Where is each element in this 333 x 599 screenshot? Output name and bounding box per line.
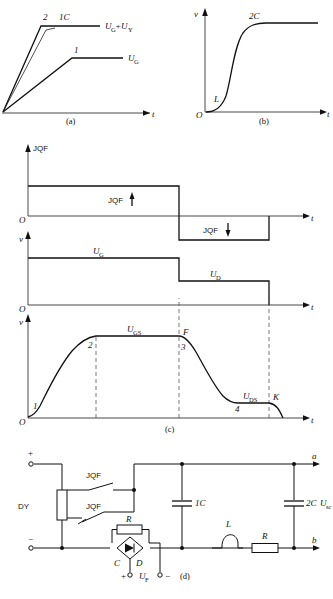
chart1-x-arrow: [303, 213, 310, 219]
circuit-top-left-wire: [34, 464, 62, 490]
panel-b-caption: (b): [259, 116, 269, 126]
chart3-x-arrow: [303, 415, 310, 421]
chart3-plateau-label: U GS: [127, 324, 142, 336]
usc-sub: sc: [326, 503, 332, 510]
bridge-right-label: D: [135, 558, 143, 568]
terminal-plus: [29, 462, 33, 466]
panel-b-plateau-label: 2C: [249, 11, 261, 21]
chart1-y-axis-label: JQF: [33, 144, 48, 153]
panel-c-caption: (c): [165, 424, 175, 434]
inductor-label: L: [225, 519, 231, 529]
panel-a-cap-label: 1C: [59, 12, 71, 22]
cap1-bottom-node: [180, 546, 184, 550]
panel-a-upper-curve-label: U G +U Y: [105, 21, 133, 33]
chart1-pulse-neg-label: JQF: [203, 226, 218, 235]
chart3-uds-sub: DS: [249, 396, 258, 403]
figure-root: 2 1C 1 U G +U Y U G t (a) v t O L 2C (b: [0, 0, 333, 599]
terminal-minus-label: −: [28, 534, 33, 544]
relay-bottom-tick: [78, 519, 86, 524]
chart3-ptF: F: [182, 327, 189, 337]
chart2-waveform: [28, 258, 269, 305]
bridge-diode-symbol: [125, 544, 134, 553]
chart3-y-arrow: [25, 314, 31, 322]
panel-c-chart-voltage: v O t U G U D: [19, 231, 314, 314]
chart2-low-level-label: U D: [210, 269, 221, 281]
chart3-tail-label: U DS: [243, 391, 258, 403]
resistor-top-right-wire: [142, 530, 149, 544]
relay-top-blade: [89, 483, 113, 490]
panel-b-y-arrow: [202, 8, 208, 16]
chart3-origin-label: O: [19, 417, 26, 427]
chart2-ug-sub: G: [99, 251, 104, 258]
panel-b-curve: [206, 23, 318, 112]
node-b-label: b: [312, 535, 317, 545]
chart3-pt4: 4: [235, 404, 240, 414]
cap1-label: 1C: [195, 498, 207, 508]
uy-sub: Y: [128, 26, 133, 33]
chart3-pt2: 2: [88, 340, 93, 350]
output-minus-label: −: [165, 571, 170, 581]
chart3-pt3: 3: [180, 342, 186, 352]
bridge-output-minus-wire: [149, 543, 160, 572]
dy-label: DY: [18, 502, 30, 511]
panel-d-caption: (d): [180, 571, 190, 581]
resistor-top: [117, 525, 142, 534]
panel-c-chart-jqf: JQF O t JQF JQF: [19, 144, 314, 240]
chart2-y-axis-label: v: [19, 234, 23, 244]
panel-a-point-2-label: 2: [43, 12, 48, 22]
cap1-top-node: [180, 462, 184, 466]
chart3-ugs-sub: GS: [133, 329, 142, 336]
output-plus-terminal: [128, 573, 132, 577]
panel-a-curve-lower: [3, 58, 123, 112]
chart1-pulse-pos-label: JQF: [108, 196, 123, 205]
circuit-node-b-arrow: [313, 545, 320, 551]
relay-top-label: JQF: [86, 471, 101, 480]
relay-bottom-label: JQF: [86, 502, 101, 511]
chart1-waveform: [28, 186, 269, 240]
terminal-plus-label: +: [28, 448, 33, 458]
chart2-origin-label: O: [19, 304, 26, 314]
circuit-top-rail: [134, 464, 317, 490]
chart1-y-arrow: [25, 144, 31, 152]
resistor-right: [252, 544, 278, 553]
chart1-pulse-pos-arrow: [130, 192, 135, 199]
chart1-pulse-neg-arrow: [226, 230, 231, 237]
chart2-high-level-label: U G: [93, 246, 104, 258]
resistor-right-label: R: [261, 531, 268, 541]
panel-a-curve-upper-alt: [3, 28, 55, 112]
chart1-pulse-neg-annotation: JQF: [203, 223, 231, 237]
inductor-coil: [222, 535, 238, 548]
uy-text: +U: [115, 21, 128, 31]
chart1-x-axis-label: t: [311, 213, 314, 223]
panel-a-x-arrow: [143, 110, 150, 116]
relay-bottom-blade: [82, 512, 104, 522]
dy-coil: [57, 490, 67, 520]
node-a-label: a: [312, 451, 317, 461]
panel-b-knee-label: L: [213, 94, 219, 104]
chart2-y-arrow: [25, 231, 31, 239]
resistor-top-left-wire: [112, 530, 117, 544]
chart3-x-axis-label: t: [311, 415, 314, 425]
chart2-x-axis-label: t: [311, 302, 314, 312]
uf-sub: F: [145, 576, 149, 583]
bridge-left-label: C: [114, 558, 121, 568]
panel-a-x-axis-label: t: [152, 109, 155, 119]
uf-label: U F: [139, 571, 149, 583]
panel-a-curve-upper: [3, 26, 100, 112]
chart3-ptK: K: [272, 392, 280, 402]
panel-a-point-1-label: 1: [74, 45, 79, 55]
resistor-top-label: R: [125, 514, 132, 524]
cap2-top-node: [292, 462, 296, 466]
panel-a-caption: (a): [66, 116, 76, 126]
chart2-ud-sub: D: [216, 274, 221, 281]
panel-d-circuit: + − DY JQF JQF R C D: [18, 448, 332, 583]
panel-b: v t O L 2C (b): [194, 8, 330, 126]
panel-b-origin-label: O: [196, 110, 203, 120]
cap2-bottom-node: [292, 546, 296, 550]
relay-bottom-right-wire: [104, 490, 134, 512]
circuit-node-a-arrow: [313, 461, 320, 467]
chart2-x-arrow: [303, 302, 310, 308]
ug2-sub: G: [134, 58, 139, 65]
panel-c-chart-gate: v O t U GS U DS 1 2 3 4 F K (c): [19, 298, 314, 434]
chart3-curve: [28, 336, 283, 418]
